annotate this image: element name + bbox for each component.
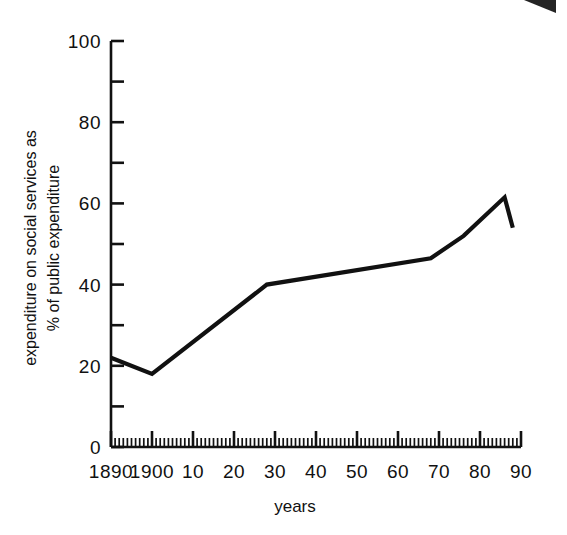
y-axis-title-line1: expenditure on social services as	[22, 130, 39, 366]
x-tick-label: 1900	[130, 461, 174, 482]
x-tick-label: 40	[305, 461, 327, 482]
x-tick-label: 10	[182, 461, 204, 482]
x-tick-label: 30	[264, 461, 286, 482]
y-axis-title-line2: % of public expenditure	[45, 165, 62, 331]
x-tick-label: 90	[510, 461, 532, 482]
y-tick-label: 60	[79, 193, 101, 214]
y-tick-label: 40	[79, 275, 101, 296]
y-axis-ticks	[111, 41, 124, 447]
x-tick-label: 20	[223, 461, 245, 482]
x-tick-label: 70	[428, 461, 450, 482]
chart-svg: 020406080100 18901900102030405060708090 …	[0, 0, 567, 535]
line-chart-figure: 020406080100 18901900102030405060708090 …	[0, 0, 567, 535]
x-axis-tick-labels: 18901900102030405060708090	[89, 461, 532, 482]
x-tick-label: 80	[469, 461, 491, 482]
y-tick-label: 80	[79, 112, 101, 133]
data-series-line	[111, 197, 513, 374]
y-axis-tick-labels: 020406080100	[68, 31, 101, 458]
x-tick-label: 50	[346, 461, 368, 482]
y-tick-label: 20	[79, 356, 101, 377]
y-tick-label: 100	[68, 31, 101, 52]
y-tick-label: 0	[90, 437, 101, 458]
x-axis-title: years	[274, 497, 316, 516]
x-tick-label: 60	[387, 461, 409, 482]
x-tick-label: 1890	[89, 461, 133, 482]
x-axis-ticks	[111, 431, 521, 447]
